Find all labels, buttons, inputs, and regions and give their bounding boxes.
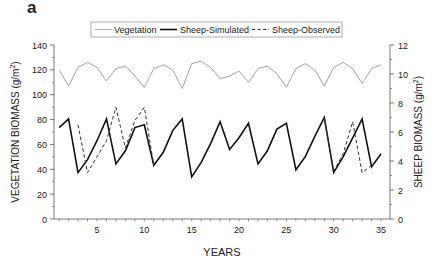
legend-label-sheep-simulated: Sheep-Simulated: [180, 25, 249, 35]
right-tick-label: 12: [398, 41, 408, 51]
x-tick-label: 5: [94, 225, 99, 235]
right-axis-title: SHEEP BIOMASS (g/m2): [412, 76, 424, 188]
x-tick-label: 15: [187, 225, 197, 235]
right-tick-label: 8: [398, 99, 403, 109]
line-chart: Vegetation Sheep-Simulated Sheep-Observe…: [0, 0, 440, 262]
left-tick-label: 140: [32, 41, 47, 51]
x-ticks: 5101520253035: [59, 219, 386, 235]
x-tick-label: 25: [281, 225, 291, 235]
right-y-ticks: 024681012: [390, 41, 408, 225]
right-tick-label: 2: [398, 186, 403, 196]
left-tick-label: 20: [37, 190, 47, 200]
left-tick-label: 100: [32, 90, 47, 100]
right-tick-label: 0: [398, 215, 403, 225]
left-axis-title: VEGETATION BIOMASS (g/m2): [9, 61, 21, 202]
legend-label-sheep-observed: Sheep-Observed: [272, 25, 340, 35]
x-tick-label: 30: [329, 225, 339, 235]
left-tick-label: 60: [37, 140, 47, 150]
right-tick-label: 6: [398, 128, 403, 138]
left-y-ticks: 020406080100120140: [32, 41, 54, 225]
left-tick-label: 40: [37, 165, 47, 175]
x-tick-label: 10: [139, 225, 149, 235]
legend-label-vegetation: Vegetation: [114, 25, 157, 35]
left-tick-label: 80: [37, 115, 47, 125]
x-tick-label: 20: [234, 225, 244, 235]
left-tick-label: 0: [42, 215, 47, 225]
x-axis-title: YEARS: [203, 246, 240, 258]
legend: Vegetation Sheep-Simulated Sheep-Observe…: [91, 22, 342, 37]
series-sheep-observed: [324, 118, 371, 173]
x-tick-label: 35: [376, 225, 386, 235]
left-tick-label: 120: [32, 65, 47, 75]
right-tick-label: 4: [398, 157, 403, 167]
right-tick-label: 10: [398, 70, 408, 80]
series-layer: [59, 61, 381, 177]
series-vegetation: [59, 61, 381, 88]
